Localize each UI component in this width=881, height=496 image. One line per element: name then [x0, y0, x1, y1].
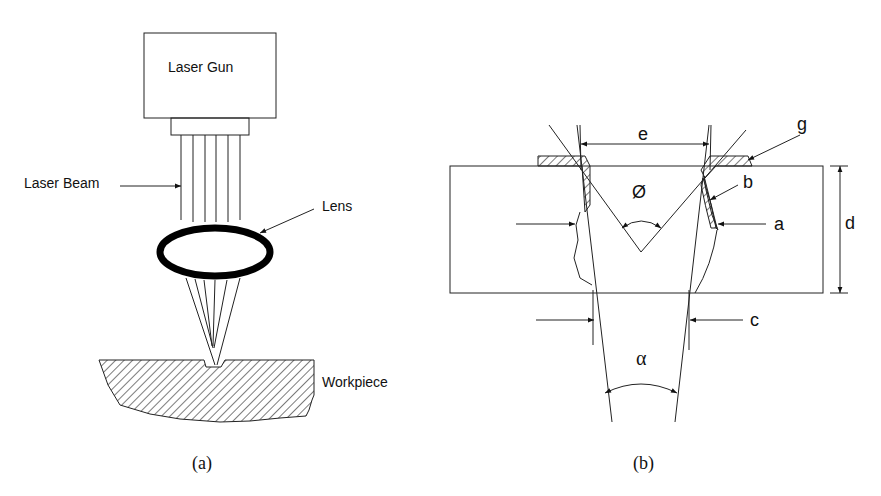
panel-b: Ø e g b a d c α (b): [450, 114, 855, 474]
laser-nozzle: [171, 118, 249, 135]
d-label: d: [845, 213, 855, 233]
b-label: b: [743, 172, 753, 192]
lens-arrow: [260, 209, 314, 233]
spatter-left: [538, 156, 590, 212]
kerf-taper-lines: [577, 125, 711, 422]
laser-gun-label: Laser Gun: [168, 59, 233, 75]
caption-a: (a): [192, 453, 212, 474]
b-arrow: [710, 185, 738, 200]
left-wall-profile: [574, 212, 592, 285]
laser-beam-label: Laser Beam: [24, 175, 99, 191]
lens-label: Lens: [322, 198, 352, 214]
g-arrow: [748, 135, 800, 160]
lens: [160, 228, 270, 276]
laser-gun-box: [144, 33, 276, 118]
right-wall-profile: [695, 230, 717, 293]
alpha-arc: [605, 384, 677, 393]
workpiece: [99, 360, 314, 422]
caption-b: (b): [633, 453, 654, 474]
c-label: c: [750, 310, 759, 330]
phi-arc: [622, 221, 661, 228]
phi-label: Ø: [632, 182, 646, 202]
e-label: e: [638, 124, 648, 144]
g-label: g: [797, 114, 807, 134]
laser-beams: [181, 135, 240, 222]
alpha-label: α: [636, 347, 647, 369]
a-label: a: [774, 214, 785, 234]
panel-a: Laser Gun Laser Beam Lens Wor: [24, 33, 388, 474]
focused-beams: [186, 278, 240, 365]
workpiece-label: Workpiece: [322, 374, 388, 390]
